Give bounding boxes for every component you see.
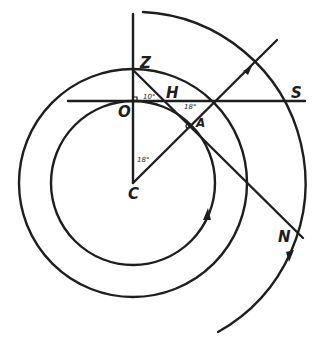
label-h: H	[166, 86, 179, 101]
angle-at-o: 10°	[143, 94, 155, 101]
label-s: S	[291, 86, 302, 101]
diagram-canvas: Z H S O C N A 10° 18° 18°	[0, 0, 327, 345]
label-z: Z	[140, 56, 151, 71]
label-o: O	[118, 105, 131, 120]
label-a: A	[196, 117, 205, 129]
label-n: N	[278, 230, 291, 245]
line-zn	[133, 70, 303, 238]
geometry-drawing	[0, 0, 327, 345]
angle-at-h: 18°	[184, 104, 196, 111]
label-c: C	[128, 187, 139, 202]
angle-at-c: 18°	[137, 157, 149, 164]
line-c-upper	[133, 40, 277, 183]
large-arc	[143, 12, 305, 332]
